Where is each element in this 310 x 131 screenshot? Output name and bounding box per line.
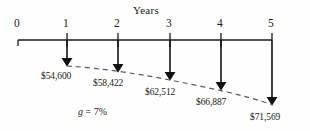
cash-flow-label-5: $71,569 bbox=[250, 113, 280, 123]
chart-title: Years bbox=[133, 5, 159, 16]
cash-flow-label-4: $66,887 bbox=[196, 98, 226, 108]
axis-tick-label-0: 0 bbox=[14, 18, 20, 30]
growth-rate-value: 7% bbox=[94, 106, 107, 117]
growth-rate-annotation: g = 7% bbox=[78, 107, 107, 117]
axis-tick-label-2: 2 bbox=[114, 18, 120, 30]
axis-tick-label-4: 4 bbox=[217, 18, 223, 30]
cash-flow-label-3: $62,512 bbox=[145, 88, 175, 98]
growth-rate-equals: = bbox=[83, 106, 94, 117]
cash-flow-label-2: $58,422 bbox=[93, 79, 123, 89]
axis-tick-label-5: 5 bbox=[268, 18, 274, 30]
axis-tick-label-1: 1 bbox=[63, 18, 69, 30]
axis-tick-label-3: 3 bbox=[166, 18, 172, 30]
cash-flow-label-1: $54,600 bbox=[41, 72, 71, 82]
cash-flow-timeline-figure: Years 0 1 2 3 4 5 $54,600 $58,422 $62,51… bbox=[0, 0, 310, 131]
